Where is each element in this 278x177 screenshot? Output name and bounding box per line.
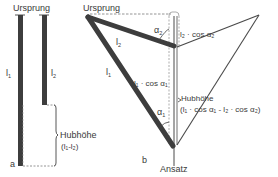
label-l1-b: l1 — [106, 67, 111, 78]
muscle-bar-l2 — [42, 15, 47, 105]
panel-b: Ursprung α2 α1 l2 l1 l₁ · cos α₁ l₂ · co… — [83, 3, 261, 174]
lift-brace-a — [54, 105, 58, 166]
l1-cos-alpha1-label: l₁ · cos α₁ — [134, 79, 168, 88]
lift-label-a: Hubhöhe — [60, 130, 97, 140]
lift-label-b: Hubhöhe — [181, 94, 214, 103]
label-l1-a: l1 — [6, 68, 11, 79]
lift-formula-b: (l₁ · cos α₁ - l₂ · cos α₂) — [180, 105, 261, 114]
label-l2-b: l2 — [116, 37, 121, 48]
muscle-bar-l1 — [18, 15, 23, 166]
panel-tag-a: a — [10, 159, 15, 169]
l2-cos-alpha2-label: l₂ · cos α₂ — [180, 30, 214, 39]
muscle-lift-diagram: Ursprung l1 l2 Hubhöhe (l₁-l₂) a Ursprun… — [0, 0, 278, 177]
insertion-label: Ansatz — [160, 164, 188, 174]
panel-a: Ursprung l1 l2 Hubhöhe (l₁-l₂) a — [6, 3, 97, 169]
diagram-canvas: Ursprung l1 l2 Hubhöhe (l₁-l₂) a Ursprun… — [0, 0, 278, 177]
panel-tag-b: b — [142, 155, 147, 165]
alpha2-label: α2 — [154, 25, 162, 36]
lift-formula-a: (l₁-l₂) — [61, 142, 79, 151]
origin-label-a: Ursprung — [13, 3, 50, 13]
alpha1-label: α1 — [157, 107, 165, 118]
label-l2-a: l2 — [51, 68, 56, 79]
origin-label-b: Ursprung — [83, 3, 120, 13]
